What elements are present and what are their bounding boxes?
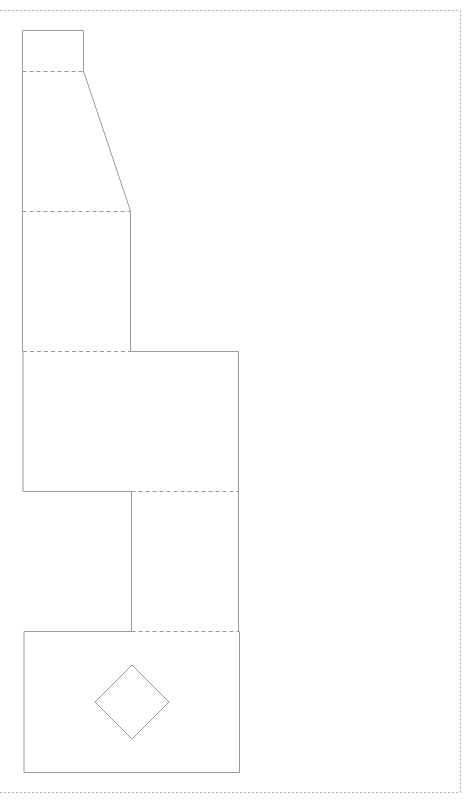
page-border bbox=[0, 11, 461, 793]
template-canvas bbox=[0, 0, 467, 802]
top-cap-outline bbox=[23, 31, 84, 72]
taper-diagonal-edge bbox=[84, 71, 131, 211]
net-diagram bbox=[0, 0, 467, 802]
diamond-cutout bbox=[95, 665, 169, 739]
cut-lines bbox=[23, 31, 240, 773]
